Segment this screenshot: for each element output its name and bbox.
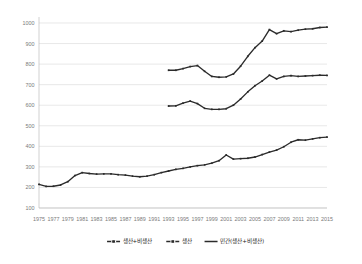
data-point-marker [261,154,263,156]
data-point-marker [168,69,170,71]
x-axis-tick-label: 1977 [47,216,59,222]
data-point-marker [305,28,307,30]
data-point-marker [276,33,278,35]
data-point-marker [247,55,249,57]
data-point-marker [240,158,242,160]
data-point-marker [225,108,227,110]
line-chart: 1000900800700600500400300200100 19751977… [0,0,362,264]
data-point-marker [261,80,263,82]
data-point-marker [326,75,328,77]
data-point-marker [204,107,206,109]
data-point-marker [305,139,307,141]
data-point-marker [283,76,285,78]
data-point-marker [175,169,177,171]
x-axis-tick-label: 1985 [105,216,117,222]
data-point-marker [319,74,321,76]
data-point-marker [233,104,235,106]
data-point-marker [290,141,292,143]
data-point-marker [103,173,105,175]
data-point-marker [211,76,213,78]
data-point-marker [204,70,206,72]
y-axis-tick-label: 700 [26,82,35,88]
data-point-marker [269,151,271,153]
data-point-marker [197,165,199,167]
x-axis-tick-label: 1995 [177,216,189,222]
data-series [38,26,328,187]
y-axis-tick-label: 400 [26,143,35,149]
x-axis-tick-label: 2011 [292,216,304,222]
x-axis-tick-label: 1979 [62,216,74,222]
legend-item[interactable]: 민간(생산+비생산) [205,237,265,245]
data-point-marker [74,175,76,177]
chart-container: 1000900800700600500400300200100 19751977… [0,0,362,264]
x-axis-tick-label: 2005 [249,216,261,222]
data-point-marker [269,74,271,76]
data-point-marker [290,31,292,33]
gridlines [39,17,327,208]
data-point-marker [240,98,242,100]
data-point-marker [254,156,256,158]
y-axis-tick-label: 800 [26,61,35,67]
data-point-marker [247,157,249,159]
data-point-marker [305,75,307,77]
y-axis-tick-label: 200 [26,184,35,190]
data-point-marker [60,184,62,186]
data-point-marker [189,166,191,168]
data-point-marker [269,29,271,31]
data-point-marker [125,174,127,176]
data-point-marker [247,91,249,93]
data-point-marker [45,186,47,188]
legend-label: 생산 [182,237,192,244]
data-point-marker [261,40,263,42]
data-point-marker [297,76,299,78]
data-point-marker [132,175,134,177]
data-point-marker [189,66,191,68]
data-point-marker [197,65,199,67]
series-2 [168,74,328,110]
y-axis-tick-label: 1000 [23,20,35,26]
data-point-marker [290,75,292,77]
data-point-marker [117,174,119,176]
data-point-marker [218,108,220,110]
x-axis-tick-label: 1987 [119,216,131,222]
data-point-marker [283,146,285,148]
data-point-marker [168,105,170,107]
data-point-marker [240,65,242,67]
x-axis-tick-label: 1993 [163,216,175,222]
data-point-marker [67,181,69,183]
x-axis-tick-label: 2001 [220,216,232,222]
legend-dot-marker [112,240,115,243]
x-axis-tick-label: 2003 [235,216,247,222]
data-point-marker [297,29,299,31]
x-axis-tick-label: 1991 [148,216,160,222]
data-point-marker [312,138,314,140]
data-point-marker [211,108,213,110]
data-point-marker [153,174,155,176]
y-axis-tick-label: 100 [26,205,35,211]
data-point-marker [319,137,321,139]
data-point-marker [326,136,328,138]
data-point-marker [211,162,213,164]
x-axis-tick-label: 2015 [321,216,333,222]
y-axis-ticks: 1000900800700600500400300200100 [23,20,35,211]
data-point-marker [218,76,220,78]
data-point-marker [254,85,256,87]
legend-dot-marker [172,240,175,243]
data-point-marker [189,100,191,102]
legend-item[interactable]: 생산 [166,237,192,244]
x-axis-tick-label: 1981 [76,216,88,222]
legend-item[interactable]: 생산+비생산 [107,237,152,245]
data-point-marker [225,154,227,156]
data-point-marker [182,167,184,169]
series-line [39,137,327,186]
data-point-marker [283,30,285,32]
data-point-marker [276,149,278,151]
x-axis-tick-label: 2013 [307,216,319,222]
data-point-marker [168,170,170,172]
x-axis-ticks: 1975197719791981198319851987198919911993… [33,216,333,222]
data-point-marker [175,69,177,71]
data-point-marker [326,26,328,28]
legend-label: 생산+비생산 [123,237,153,245]
data-point-marker [146,175,148,177]
data-point-marker [233,73,235,75]
